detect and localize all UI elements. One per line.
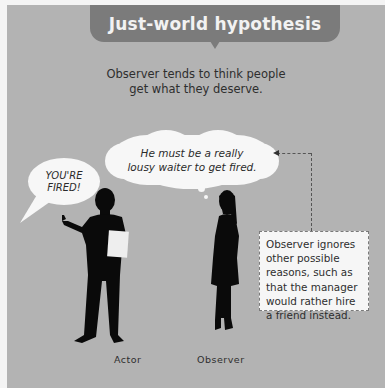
thought-line-2: lousy waiter to get fired. bbox=[127, 160, 256, 174]
connector-line-vertical bbox=[311, 153, 312, 231]
note-line: other possible bbox=[266, 251, 362, 265]
thought-line-1: He must be a really bbox=[141, 146, 244, 160]
observer-silhouette bbox=[207, 188, 247, 338]
title-banner: Just-world hypothesis bbox=[90, 5, 340, 42]
subtitle-line-1: Observer tends to think people bbox=[7, 67, 385, 82]
connector-line-horizontal bbox=[277, 153, 311, 154]
paper-sheet bbox=[107, 230, 129, 257]
subtitle-line-2: get what they deserve. bbox=[7, 82, 385, 97]
actor-silhouette bbox=[62, 185, 142, 345]
observer-thought-bubble: He must be a really lousy waiter to get … bbox=[111, 135, 273, 185]
note-line: reasons, such as bbox=[266, 265, 362, 279]
annotation-note: Observer ignores other possible reasons,… bbox=[259, 231, 369, 311]
actor-label: Actor bbox=[114, 354, 142, 365]
note-line: a friend instead. bbox=[266, 308, 362, 322]
note-line: Observer ignores bbox=[266, 237, 362, 251]
subtitle: Observer tends to think people get what … bbox=[7, 67, 385, 97]
note-line: that the manager bbox=[266, 280, 362, 294]
title-pointer bbox=[210, 41, 220, 49]
diagram-title: Just-world hypothesis bbox=[109, 14, 321, 34]
thought-dot-large bbox=[198, 185, 205, 192]
note-line: would rather hire bbox=[266, 294, 362, 308]
arrow-left-icon bbox=[273, 150, 279, 156]
diagram-panel: Just-world hypothesis Observer tends to … bbox=[7, 5, 385, 388]
observer-label: Observer bbox=[197, 354, 245, 365]
actor-speech-line-1: YOU'RE bbox=[45, 170, 82, 182]
